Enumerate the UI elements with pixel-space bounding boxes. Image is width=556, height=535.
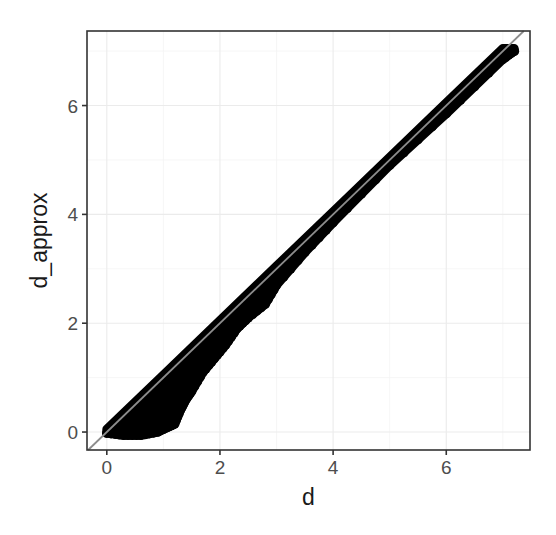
y-tick-label: 0	[67, 422, 78, 443]
data-point	[314, 233, 324, 243]
data-point	[509, 46, 519, 56]
x-axis-ticks: 0246	[102, 450, 452, 478]
scatter-plot: 0246 0246 d d_approx	[0, 0, 556, 535]
x-tick-label: 4	[328, 457, 339, 478]
data-point	[484, 68, 494, 78]
data-point	[321, 225, 331, 235]
data-point	[293, 256, 303, 266]
y-tick-label: 2	[67, 313, 78, 334]
data-point	[279, 272, 289, 282]
data-point	[272, 280, 282, 290]
data-point	[328, 218, 338, 228]
chart-root: 0246 0246 d d_approx	[0, 0, 556, 535]
x-axis-title: d	[302, 484, 315, 510]
x-tick-label: 6	[441, 457, 452, 478]
y-tick-label: 4	[67, 204, 78, 225]
y-tick-label: 6	[67, 96, 78, 117]
data-point	[300, 248, 310, 258]
data-point	[441, 109, 451, 119]
y-axis-ticks: 0246	[67, 96, 87, 443]
data-point	[456, 95, 466, 105]
x-tick-label: 0	[102, 457, 113, 478]
y-axis-title: d_approx	[26, 192, 52, 288]
x-tick-label: 2	[215, 457, 226, 478]
identity-reference-line	[88, 31, 524, 450]
data-point	[286, 264, 296, 274]
data-point	[307, 240, 317, 250]
data-point	[470, 82, 480, 92]
